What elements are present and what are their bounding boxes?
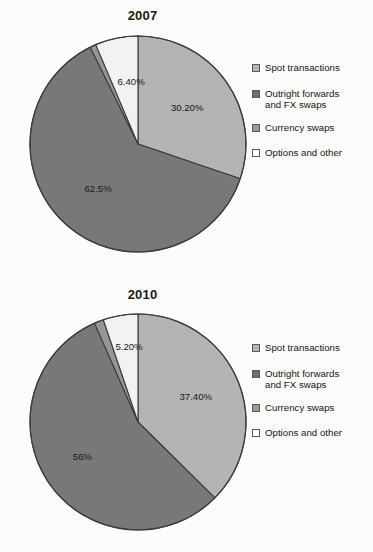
pie-slice-label-options-and-other: 6.40% bbox=[117, 76, 145, 87]
legend-2010: Spot transactionsOutright forwards and F… bbox=[252, 342, 373, 453]
pie-slice-label-options-and-other: 5.20% bbox=[115, 341, 143, 352]
legend-swatch-icon-spot-transactions bbox=[252, 344, 260, 352]
legend-item-outright-forwards[interactable]: Outright forwards and FX swaps bbox=[252, 368, 373, 391]
legend-label-spot-transactions: Spot transactions bbox=[265, 62, 340, 74]
legend-item-options-and-other[interactable]: Options and other bbox=[252, 427, 373, 439]
figure-root: 2007 30.20%62.5%6.40% Spot transactionsO… bbox=[0, 0, 373, 552]
legend-item-options-and-other[interactable]: Options and other bbox=[252, 147, 373, 159]
legend-label-outright-forwards: Outright forwards and FX swaps bbox=[265, 88, 339, 111]
chart-title-2010: 2010 bbox=[0, 287, 285, 302]
legend-swatch-icon-outright-forwards bbox=[252, 370, 260, 378]
pie-svg-2007: 30.20%62.5%6.40% bbox=[22, 28, 254, 260]
pie-slice-label-outright-forwards: 56% bbox=[73, 451, 93, 462]
legend-item-currency-swaps[interactable]: Currency swaps bbox=[252, 122, 373, 134]
legend-item-outright-forwards[interactable]: Outright forwards and FX swaps bbox=[252, 88, 373, 111]
chart-panel-2007: 2007 30.20%62.5%6.40% Spot transactionsO… bbox=[0, 0, 373, 280]
legend-label-spot-transactions: Spot transactions bbox=[265, 342, 340, 354]
pie-svg-2010: 37.40%56%5.20% bbox=[22, 306, 254, 538]
legend-item-currency-swaps[interactable]: Currency swaps bbox=[252, 402, 373, 414]
legend-2007: Spot transactionsOutright forwards and F… bbox=[252, 62, 373, 173]
legend-swatch-icon-currency-swaps bbox=[252, 404, 260, 412]
legend-item-spot-transactions[interactable]: Spot transactions bbox=[252, 62, 373, 74]
pie-chart-2007: 30.20%62.5%6.40% bbox=[22, 28, 254, 260]
legend-label-currency-swaps: Currency swaps bbox=[265, 122, 334, 134]
chart-title-2007: 2007 bbox=[0, 8, 285, 23]
legend-item-spot-transactions[interactable]: Spot transactions bbox=[252, 342, 373, 354]
pie-chart-2010: 37.40%56%5.20% bbox=[22, 306, 254, 538]
legend-swatch-icon-spot-transactions bbox=[252, 64, 260, 72]
legend-swatch-icon-currency-swaps bbox=[252, 124, 260, 132]
pie-slice-label-spot-transactions: 37.40% bbox=[180, 391, 213, 402]
chart-panel-2010: 2010 37.40%56%5.20% Spot transactionsOut… bbox=[0, 280, 373, 552]
pie-slice-label-spot-transactions: 30.20% bbox=[171, 102, 204, 113]
legend-label-options-and-other: Options and other bbox=[265, 427, 342, 439]
legend-swatch-icon-options-and-other bbox=[252, 429, 260, 437]
legend-label-currency-swaps: Currency swaps bbox=[265, 402, 334, 414]
legend-label-options-and-other: Options and other bbox=[265, 147, 342, 159]
legend-swatch-icon-options-and-other bbox=[252, 149, 260, 157]
legend-swatch-icon-outright-forwards bbox=[252, 90, 260, 98]
pie-slice-label-outright-forwards: 62.5% bbox=[84, 183, 112, 194]
legend-label-outright-forwards: Outright forwards and FX swaps bbox=[265, 368, 339, 391]
